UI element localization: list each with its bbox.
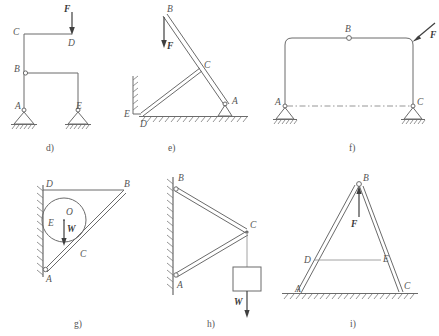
node-label-b: B	[345, 24, 351, 34]
force-arrow-f	[69, 12, 75, 35]
panel-i: B D E A C F i)	[282, 165, 439, 336]
hinge-b	[347, 36, 352, 41]
force-arrow-w	[244, 291, 249, 318]
support-pin-a	[11, 108, 37, 129]
figure-container: C D B A E F d)	[0, 0, 439, 336]
node-label-e: E	[123, 109, 130, 119]
ground-hatch	[282, 294, 418, 300]
node-label-a: A	[45, 274, 52, 284]
force-label-w: W	[234, 297, 243, 307]
force-label-f: F	[63, 4, 71, 14]
panel-e: B C A E D F e)	[105, 0, 250, 160]
wall-vertical	[37, 185, 43, 277]
member-ba	[163, 14, 229, 106]
node-label-e: E	[75, 101, 82, 111]
member-ba	[297, 185, 359, 293]
force-label-f: F	[350, 219, 358, 229]
node-label-c: C	[417, 97, 424, 107]
node-label-a: A	[231, 96, 238, 106]
node-label-d: D	[45, 179, 53, 189]
node-label-b: B	[167, 4, 173, 14]
node-label-a: A	[14, 101, 21, 111]
member-bc	[175, 187, 247, 233]
panel-g: D B O E C A W g)	[0, 165, 145, 336]
panel-caption-h: h)	[207, 319, 215, 330]
node-label-b: B	[363, 173, 369, 183]
node-label-b: B	[14, 64, 20, 74]
node-label-c: C	[13, 27, 20, 37]
panel-caption-e: e)	[168, 143, 175, 154]
node-label-a: A	[274, 97, 281, 107]
force-arrow-f	[161, 17, 167, 48]
node-label-c: C	[250, 220, 257, 230]
support-pin-e	[65, 108, 91, 129]
node-label-o: O	[66, 207, 73, 217]
support-pin-a	[273, 104, 297, 124]
force-label-f: F	[166, 41, 174, 51]
node-label-b: B	[124, 179, 130, 189]
panel-caption-i: i)	[350, 319, 356, 330]
node-label-a: A	[176, 280, 183, 290]
support-pin-a	[43, 267, 47, 271]
panel-h: B C A W h)	[145, 165, 285, 336]
frame-outline	[285, 38, 413, 106]
hinge-b	[23, 71, 27, 75]
pin-b	[174, 187, 178, 191]
member-dc	[141, 68, 202, 116]
support-pin-c	[401, 104, 425, 124]
node-label-c: C	[80, 249, 87, 259]
member-ab	[45, 190, 126, 272]
support-pin-a	[218, 102, 232, 116]
pin-b	[357, 182, 362, 187]
node-label-c: C	[404, 281, 411, 291]
node-label-e: E	[47, 218, 54, 228]
node-label-e: E	[382, 254, 389, 264]
force-label-f: F	[429, 30, 437, 40]
node-label-d: D	[139, 119, 147, 129]
hanging-block	[233, 267, 261, 291]
panel-caption-g: g)	[74, 319, 82, 330]
node-label-a: A	[294, 284, 301, 294]
node-label-c: C	[204, 60, 211, 70]
panel-caption-f: f)	[349, 143, 355, 154]
wall-stub-e	[133, 76, 141, 114]
panel-caption-d: d)	[46, 143, 54, 154]
pin-a	[174, 273, 178, 277]
member-ac	[176, 231, 248, 277]
node-label-d: D	[67, 38, 75, 48]
panel-f: B A C F f)	[265, 0, 439, 160]
node-label-d: D	[303, 255, 311, 265]
node-label-b: B	[178, 173, 184, 183]
ground-hatch	[139, 117, 248, 123]
wall-vertical	[167, 177, 173, 295]
member-bc	[359, 185, 403, 292]
force-label-w: W	[67, 224, 76, 234]
